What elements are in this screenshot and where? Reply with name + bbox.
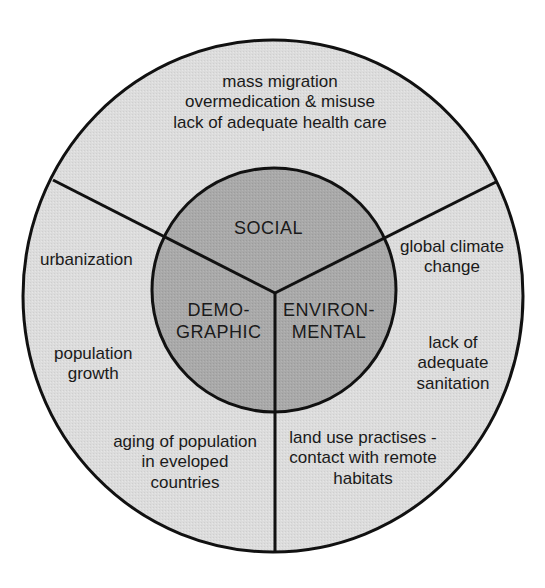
social-item-2: overmedication & misuse <box>155 92 405 112</box>
demographic-item-population-line1: population <box>54 344 132 364</box>
environmental-item-landuse-line3: habitats <box>283 469 443 489</box>
demographic-item-urbanization: urbanization <box>40 250 133 270</box>
environmental-item-sanitation-line3: sanitation <box>403 374 503 394</box>
demographic-item-aging-line2: in eveloped <box>102 452 268 472</box>
label-demographic-core: DEMO- GRAPHIC <box>176 300 262 343</box>
label-sanitation: lack of adequate sanitation <box>403 333 503 394</box>
environmental-item-climate-line1: global climate <box>398 237 506 257</box>
demographic-item-aging-line1: aging of population <box>102 432 268 452</box>
label-social-core: SOCIAL <box>234 218 303 240</box>
label-population-growth: population growth <box>54 344 132 385</box>
social-core-text: SOCIAL <box>234 218 303 240</box>
social-item-3: lack of adequate health care <box>155 113 405 133</box>
label-social-outer: mass migration overmedication & misuse l… <box>155 72 405 133</box>
label-land-use: land use practises - contact with remote… <box>283 428 443 489</box>
environmental-item-landuse-line2: contact with remote <box>283 448 443 468</box>
label-aging-population: aging of population in eveloped countrie… <box>102 432 268 493</box>
label-environmental-core: ENVIRON- MENTAL <box>283 300 375 343</box>
social-item-1: mass migration <box>155 72 405 92</box>
demographic-core-line1: DEMO- <box>176 300 262 322</box>
demographic-item-aging-line3: countries <box>102 473 268 493</box>
label-urbanization: urbanization <box>40 250 133 270</box>
environmental-item-sanitation-line2: adequate <box>403 353 503 373</box>
environmental-item-landuse-line1: land use practises - <box>283 428 443 448</box>
environmental-core-line2: MENTAL <box>283 322 375 344</box>
demographic-item-population-line2: growth <box>54 364 132 384</box>
label-climate-change: global climate change <box>398 237 506 278</box>
environmental-core-line1: ENVIRON- <box>283 300 375 322</box>
demographic-core-line2: GRAPHIC <box>176 322 262 344</box>
environmental-item-sanitation-line1: lack of <box>403 333 503 353</box>
environmental-item-climate-line2: change <box>398 257 506 277</box>
